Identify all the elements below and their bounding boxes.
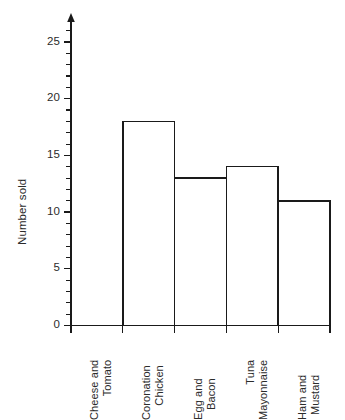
category-label-line2: Bacon	[205, 378, 218, 420]
category-label-line1: Coronation	[140, 365, 153, 420]
category-label-line2: Mustard	[309, 375, 322, 420]
category-label-coronation-chicken: Coronation Chicken	[140, 365, 165, 420]
category-label-tuna-mayonnaise: Tuna Mayonnaise	[244, 360, 269, 420]
bar-coronation-chicken[interactable]	[175, 178, 227, 325]
ytick-label-5: 5	[34, 262, 60, 274]
bar-ham-and-mustard[interactable]	[278, 201, 330, 326]
y-axis-title: Number sold	[16, 179, 28, 245]
category-label-line2: Mayonnaise	[257, 360, 270, 420]
y-axis-minor-ticks	[66, 31, 71, 315]
category-label-egg-and-bacon: Egg and Bacon	[192, 378, 217, 420]
ytick-label-25: 25	[34, 36, 60, 48]
category-label-line2: Tomato	[101, 360, 114, 420]
category-label-line1: Egg and	[192, 378, 205, 420]
bar-cheese-and-tomato[interactable]	[123, 121, 175, 325]
bar-egg-and-bacon[interactable]	[226, 167, 278, 326]
category-label-line2: Chicken	[153, 365, 166, 420]
ytick-label-15: 15	[34, 149, 60, 161]
category-label-line1: Cheese and	[88, 360, 101, 420]
y-axis-arrow-icon	[67, 13, 75, 22]
x-axis-category-ticks	[71, 326, 330, 334]
ytick-label-20: 20	[34, 92, 60, 104]
y-axis-major-ticks	[64, 42, 71, 326]
category-label-ham-and-mustard: Ham and Mustard	[296, 375, 321, 420]
category-label-cheese-and-tomato: Cheese and Tomato	[88, 360, 113, 420]
bars-group	[123, 121, 330, 325]
category-label-line1: Ham and	[296, 375, 309, 420]
category-label-line1: Tuna	[244, 360, 257, 420]
ytick-label-0: 0	[34, 319, 60, 331]
ytick-label-10: 10	[34, 206, 60, 218]
